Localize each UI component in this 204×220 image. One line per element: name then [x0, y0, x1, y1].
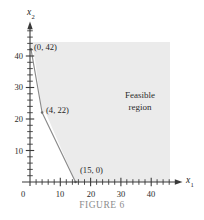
x-axis-label: x1 — [186, 175, 194, 187]
y-tick-label-20: 20 — [9, 114, 23, 124]
x-tick-label-0: 0 — [16, 189, 30, 199]
vertex-dot-4-22 — [41, 111, 44, 114]
point-label-15-0: (15, 0) — [80, 165, 103, 175]
y-axis-label-base: x — [27, 7, 31, 17]
y-tick-label-10: 10 — [9, 146, 23, 156]
y-tick-label-40: 40 — [9, 51, 23, 61]
feasible-region-label-line1: Feasible — [125, 90, 155, 100]
x-axis-arrowhead — [175, 179, 183, 184]
feasible-region-plot — [0, 0, 204, 220]
point-label-4-22: (4, 22) — [46, 105, 69, 115]
y-tick-label-30: 30 — [9, 82, 23, 92]
y-axis-arrowhead — [27, 22, 32, 30]
x-tick-label-20: 20 — [84, 189, 98, 199]
x-tick-label-40: 40 — [144, 189, 158, 199]
x-tick-label-30: 30 — [114, 189, 128, 199]
point-label-0-42: (0, 42) — [34, 42, 57, 52]
feasible-region-label: Feasible region — [108, 90, 172, 113]
figure-6-container: x2 x1 40 30 20 10 0 10 20 30 40 (0, 42) … — [0, 0, 204, 220]
x-tick-label-10: 10 — [53, 189, 67, 199]
feasible-region-label-line2: region — [108, 102, 172, 114]
figure-caption: FIGURE 6 — [0, 200, 204, 210]
y-axis-label: x2 — [27, 7, 35, 19]
x-axis-label-base: x — [186, 175, 190, 185]
x-axis-label-subscript: 1 — [191, 181, 194, 188]
y-axis-label-subscript: 2 — [32, 13, 35, 20]
